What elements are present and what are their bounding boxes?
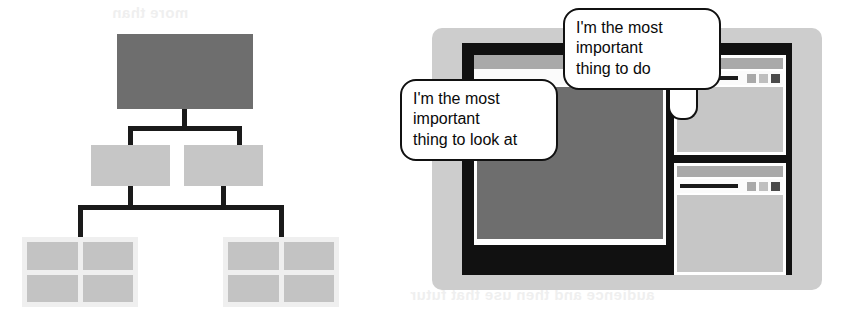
toolbar-button-2-icon[interactable] (759, 182, 768, 191)
speech-bubble-to-do: I'm the most important thing to do (563, 8, 721, 90)
screen-illustration: I'm the most important thing to look at … (428, 0, 856, 319)
connector-level2-drop-left (78, 205, 83, 238)
illustration-canvas: more than audience and then use that fut… (0, 0, 856, 319)
hierarchy-top-node (117, 34, 253, 109)
toolbar-button-1-icon[interactable] (747, 182, 756, 191)
hierarchy-leaf-group-left (22, 237, 138, 307)
visual-hierarchy-diagram (0, 0, 430, 319)
connector-level1-bar (128, 126, 242, 131)
side-window-bottom-toolbar (677, 179, 783, 193)
hierarchy-mid-node-right (184, 145, 263, 186)
leaf-box (284, 275, 335, 303)
leaf-box (27, 275, 78, 303)
leaf-box (27, 242, 78, 270)
toolbar-button-1-icon[interactable] (747, 74, 756, 83)
connector-level2-drop-right (279, 205, 284, 238)
side-window-bottom[interactable] (674, 163, 786, 275)
leaf-box (228, 275, 279, 303)
side-window-bottom-titlebar (677, 166, 783, 177)
toolbar-line (680, 184, 738, 188)
leaf-box (228, 242, 279, 270)
toolbar-button-2-icon[interactable] (759, 74, 768, 83)
side-window-bottom-body[interactable] (677, 195, 783, 272)
toolbar-button-3-icon[interactable] (771, 182, 780, 191)
leaf-box (83, 242, 134, 270)
leaf-box (83, 275, 134, 303)
speech-bubble-look-at: I'm the most important thing to look at (400, 79, 558, 161)
hierarchy-leaf-group-right (223, 237, 339, 307)
toolbar-button-3-icon[interactable] (771, 74, 780, 83)
leaf-box (284, 242, 335, 270)
connector-level2-bar (78, 205, 284, 210)
hierarchy-mid-node-left (91, 145, 170, 186)
